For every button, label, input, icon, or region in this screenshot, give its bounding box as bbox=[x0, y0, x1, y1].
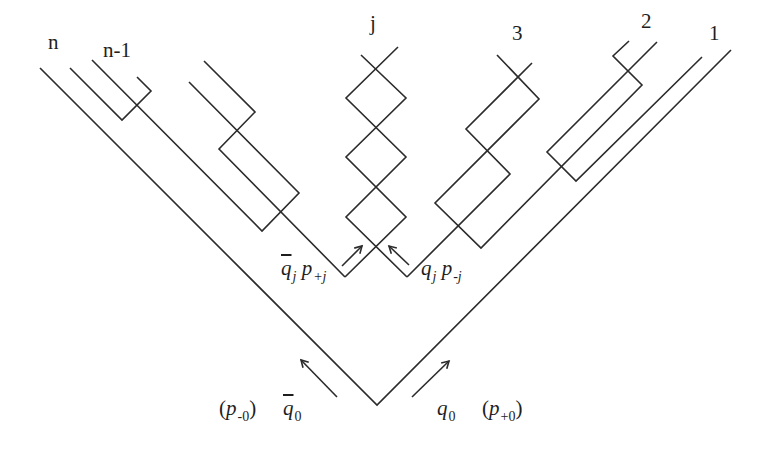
open-paren: ( bbox=[482, 396, 489, 420]
label-3: 3 bbox=[512, 23, 523, 44]
label-q-0: q0 bbox=[437, 398, 456, 419]
close-paren: ) bbox=[515, 396, 522, 420]
p-symbol: p bbox=[302, 256, 313, 280]
sub-j: j bbox=[433, 269, 437, 284]
diagram-lines bbox=[0, 0, 772, 451]
label-qbar-j-p-plus-j: qj p+j bbox=[281, 258, 326, 279]
sub-minus-j: -j bbox=[453, 269, 462, 284]
open-paren: ( bbox=[219, 396, 226, 420]
label-p-plus-0: (p+0) bbox=[482, 398, 522, 419]
label-j: j bbox=[370, 13, 376, 34]
p-symbol: p bbox=[442, 256, 453, 280]
label-2: 2 bbox=[641, 11, 652, 32]
label-qbar-0: q0 bbox=[283, 398, 302, 419]
label-q-j-p-minus-j: qj p-j bbox=[421, 258, 462, 279]
line-2-long bbox=[547, 42, 702, 181]
line-n-outer-v bbox=[40, 50, 731, 405]
sub-minus-0: -0 bbox=[238, 409, 250, 424]
sub-plus-j: +j bbox=[313, 269, 326, 284]
qbar-symbol: q bbox=[281, 256, 292, 280]
label-n-minus-1: n-1 bbox=[103, 40, 131, 61]
q-symbol: q bbox=[437, 396, 448, 420]
label-1: 1 bbox=[709, 23, 720, 44]
arrow-qbar-0-icon bbox=[301, 360, 337, 397]
j-chain-right bbox=[346, 47, 407, 277]
left-box-line-b bbox=[92, 60, 299, 231]
label-p-minus-0: (p-0) bbox=[219, 398, 256, 419]
sub-0: 0 bbox=[449, 409, 456, 424]
line-3-q bbox=[407, 63, 532, 277]
line-n-minus-1-bracket bbox=[70, 68, 151, 120]
close-paren: ) bbox=[249, 396, 256, 420]
qbar-symbol: q bbox=[283, 396, 294, 420]
sub-j: j bbox=[293, 269, 297, 284]
arrow-q-0-icon bbox=[412, 361, 449, 397]
label-n: n bbox=[48, 32, 59, 53]
sub-0: 0 bbox=[295, 409, 302, 424]
q-symbol: q bbox=[421, 256, 432, 280]
zigzag-lines bbox=[40, 41, 731, 405]
p-symbol: p bbox=[489, 396, 500, 420]
p-symbol: p bbox=[226, 396, 237, 420]
sub-plus-0: +0 bbox=[501, 409, 516, 424]
